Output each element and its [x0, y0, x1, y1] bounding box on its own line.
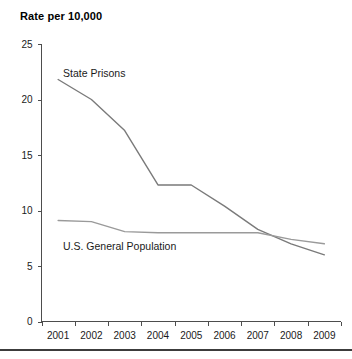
y-tick-label: 0 [27, 316, 33, 327]
x-tick-label: 2008 [280, 330, 303, 341]
footer-divider [0, 349, 352, 351]
line-chart-plot: 0510152025 20012002200320042005200620072… [0, 0, 352, 359]
x-tick-label: 2002 [80, 330, 103, 341]
y-tick-label: 25 [21, 39, 33, 50]
y-tick-labels: 0510152025 [21, 39, 33, 328]
series-annotation-u-s-general-population: U.S. General Population [63, 240, 176, 252]
y-tick-marks [38, 45, 42, 323]
y-tick-label: 5 [27, 261, 33, 272]
chart-figure: Rate per 10,000 0510152025 2001200220032… [0, 0, 352, 359]
y-axis: 0510152025 [21, 39, 41, 328]
x-tick-label: 2005 [180, 330, 203, 341]
x-tick-label: 2009 [313, 330, 336, 341]
x-tick-label: 2006 [213, 330, 236, 341]
y-tick-label: 20 [21, 94, 33, 105]
series-line-state-prisons [58, 80, 324, 255]
x-tick-label: 2004 [147, 330, 170, 341]
y-tick-label: 15 [21, 150, 33, 161]
x-tick-label: 2001 [47, 330, 70, 341]
x-axis: 200120022003200420052006200720082009 [42, 322, 342, 341]
x-tick-labels: 200120022003200420052006200720082009 [47, 330, 336, 341]
x-tick-marks [42, 322, 342, 326]
x-tick-label: 2003 [114, 330, 137, 341]
series-annotations: State PrisonsU.S. General Population [63, 67, 176, 252]
y-tick-label: 10 [21, 205, 33, 216]
data-series-group [58, 80, 324, 255]
series-annotation-state-prisons: State Prisons [63, 67, 125, 79]
x-tick-label: 2007 [247, 330, 270, 341]
